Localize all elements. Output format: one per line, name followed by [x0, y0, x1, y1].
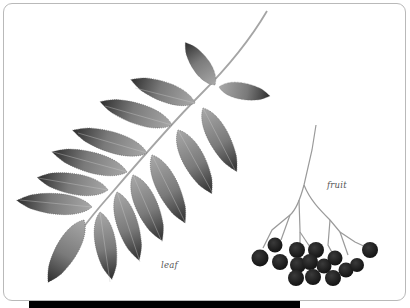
bottom-bar — [29, 301, 300, 308]
fruit-illustration — [252, 125, 379, 286]
botanical-illustration — [0, 0, 410, 308]
leaf-illustration — [16, 11, 272, 288]
leaf-label: leaf — [161, 260, 178, 270]
fruit-label: fruit — [327, 180, 347, 190]
